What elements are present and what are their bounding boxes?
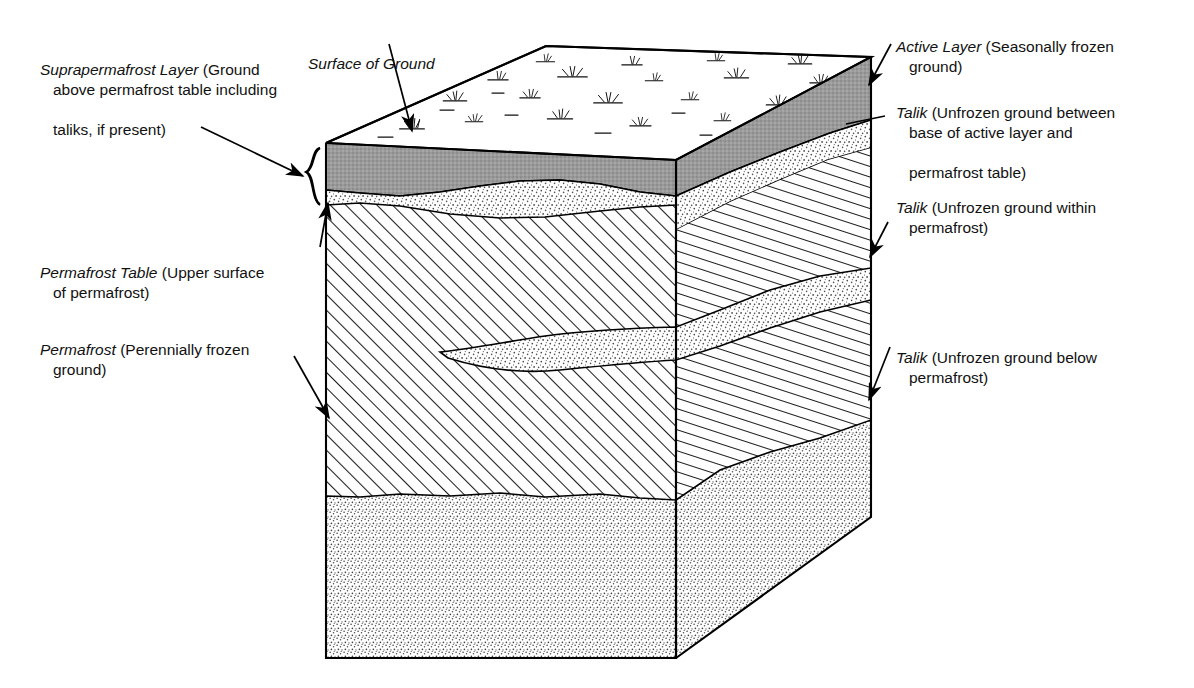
leader-talik-within [870,222,888,257]
label-suprapermafrost-layer: Suprapermafrost Layer (Ground above perm… [40,40,340,160]
label-permafrost-table-line2: of permafrost) [40,283,330,303]
label-talik-between-line2: base of active layer and [896,123,1194,143]
label-talik-between-term: Talik [896,104,927,121]
label-permafrost-def: (Perennially frozen [120,341,249,358]
label-suprapermafrost-line2: above permafrost table including [40,80,340,100]
label-surface-of-ground: Surface of Ground [308,34,538,74]
label-suprapermafrost-line3: taliks, if present) [40,120,340,140]
label-talik-within: Talik (Unfrozen ground within permafrost… [896,178,1194,258]
label-permafrost-term: Permafrost [40,341,116,358]
leader-talik-below [869,347,890,400]
label-talik-below-line2: permafrost) [896,368,1194,388]
label-permafrost: Permafrost (Perennially frozen ground) [40,320,330,400]
label-talik-below-def: (Unfrozen ground below [932,349,1097,366]
talik-below-permafrost-front [326,493,676,660]
label-suprapermafrost-term: Suprapermafrost Layer [40,61,199,78]
label-suprapermafrost-def: (Ground [203,61,260,78]
label-active-layer-line2: ground) [896,57,1194,77]
label-permafrost-table-def: (Upper surface [162,264,265,281]
label-permafrost-table-term: Permafrost Table [40,264,157,281]
label-talik-within-term: Talik [896,199,927,216]
front-face-layers [320,140,682,665]
leader-active-layer [869,44,891,85]
label-talik-within-line2: permafrost) [896,218,1194,238]
label-talik-within-def: (Unfrozen ground within [932,199,1097,216]
label-permafrost-line2: ground) [40,360,330,380]
figure-canvas: Surface of Ground Suprapermafrost Layer … [0,0,1194,688]
label-active-layer-def: (Seasonally frozen [986,38,1114,55]
label-permafrost-table: Permafrost Table (Upper surface of perma… [40,243,330,323]
label-talik-below-term: Talik [896,349,927,366]
label-talik-between-def: (Unfrozen ground between [932,104,1116,121]
label-talik-below: Talik (Unfrozen ground below permafrost) [896,328,1194,408]
label-active-layer-term: Active Layer [896,38,981,55]
